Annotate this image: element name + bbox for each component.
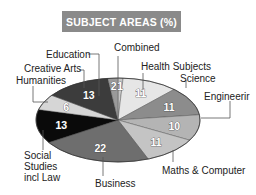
label-social-1: Social [24, 150, 51, 161]
value-label: 1 [117, 80, 123, 92]
value-label: 11 [164, 101, 175, 113]
label-maths: Maths & Computer [162, 165, 246, 176]
label-social-3: incl Law [24, 172, 61, 183]
label-combined: Combined [114, 42, 160, 53]
label-creative: Creative Arts [24, 63, 81, 74]
pie-chart: 11111101122136132 Education Combined Hea… [0, 0, 256, 195]
label-health: Health Subjects [141, 61, 211, 72]
value-label: 6 [63, 101, 69, 113]
value-label: 13 [83, 89, 95, 101]
value-label: 22 [94, 142, 106, 154]
value-label: 11 [135, 87, 146, 99]
value-label: 11 [150, 136, 161, 148]
label-engineering: Engineerir [204, 91, 250, 102]
value-label: 10 [169, 120, 181, 132]
label-science: Science [180, 73, 216, 84]
value-label: 13 [55, 119, 67, 131]
leader-engineering [201, 101, 230, 118]
label-humanities: Humanities [16, 75, 66, 86]
value-label: 2 [111, 80, 117, 92]
label-social-2: Studies [24, 161, 57, 172]
label-education: Education [46, 49, 90, 60]
label-business: Business [95, 178, 136, 189]
